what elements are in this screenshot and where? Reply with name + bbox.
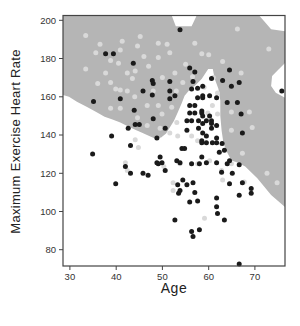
data-point — [145, 103, 150, 108]
x-axis-label: Age — [63, 280, 285, 296]
data-point — [116, 61, 121, 66]
y-axis-ticks: 80100120140160180200 — [40, 15, 63, 255]
data-point — [141, 89, 146, 94]
data-point — [163, 168, 168, 173]
data-point — [192, 111, 197, 116]
data-point — [128, 143, 133, 148]
data-point — [132, 108, 137, 113]
data-point — [199, 140, 204, 145]
data-point — [103, 70, 108, 75]
data-point — [174, 89, 179, 94]
data-point — [126, 126, 131, 131]
data-point — [214, 135, 219, 140]
data-point — [103, 51, 108, 56]
data-point — [136, 145, 141, 150]
data-point — [174, 120, 179, 125]
data-point — [227, 181, 232, 186]
data-point — [184, 128, 189, 133]
data-point — [172, 70, 177, 75]
data-point — [171, 180, 176, 185]
data-point — [180, 178, 185, 183]
data-point — [200, 93, 205, 98]
data-point — [113, 181, 118, 186]
data-point — [237, 193, 242, 198]
data-point — [108, 106, 113, 111]
data-point — [197, 161, 202, 166]
data-point — [160, 112, 165, 117]
data-point — [178, 27, 183, 32]
data-point — [184, 182, 189, 187]
data-point — [191, 234, 196, 239]
data-point — [158, 126, 163, 131]
y-axis-label: Maximum Exercise Heart Rate — [8, 22, 23, 262]
data-point — [156, 55, 161, 60]
data-point — [200, 113, 205, 118]
data-point — [195, 95, 200, 100]
data-point — [200, 84, 205, 89]
data-point — [249, 191, 254, 196]
data-point — [214, 196, 219, 201]
data-point — [192, 190, 197, 195]
data-point — [111, 51, 116, 56]
y-tick-label: 200 — [40, 15, 56, 26]
data-point — [275, 180, 280, 185]
data-point — [220, 178, 225, 183]
data-point — [209, 126, 214, 131]
data-point — [187, 111, 192, 116]
data-point — [120, 39, 125, 44]
data-point — [128, 171, 133, 176]
data-point — [214, 204, 219, 209]
data-point — [131, 61, 136, 66]
data-point — [125, 70, 130, 75]
data-point — [167, 96, 172, 101]
data-point — [222, 148, 227, 153]
data-point — [187, 66, 192, 71]
data-point — [83, 33, 88, 38]
data-point — [169, 105, 174, 110]
data-point — [204, 140, 209, 145]
data-point — [197, 227, 202, 232]
data-point — [199, 51, 204, 56]
data-point — [180, 80, 185, 85]
data-point — [235, 26, 240, 31]
data-point — [214, 123, 219, 128]
data-point — [158, 155, 163, 160]
data-point — [196, 118, 201, 123]
data-point — [195, 86, 200, 91]
data-point — [189, 161, 194, 166]
data-point — [175, 134, 180, 139]
scatter-plot-svg: 304050607080100120140160180200 — [0, 0, 300, 326]
data-point — [199, 155, 204, 160]
data-point — [250, 125, 255, 130]
data-point — [138, 34, 143, 39]
data-point — [200, 121, 205, 126]
data-point — [190, 74, 195, 79]
data-point — [210, 103, 215, 108]
data-point — [90, 152, 95, 157]
data-point — [160, 75, 165, 80]
data-point — [151, 116, 156, 121]
data-point — [220, 141, 225, 146]
data-point — [183, 62, 188, 67]
data-point — [265, 171, 270, 176]
data-point — [279, 89, 284, 94]
data-point — [83, 67, 88, 72]
data-point — [227, 68, 232, 73]
data-point — [209, 121, 214, 126]
data-point — [239, 112, 244, 117]
data-point — [192, 69, 197, 74]
data-point — [215, 112, 220, 117]
data-point — [187, 103, 192, 108]
data-point — [113, 87, 118, 92]
data-point — [192, 41, 197, 46]
y-tick-label: 180 — [40, 53, 56, 64]
data-point — [187, 199, 192, 204]
data-point — [135, 44, 140, 49]
data-point — [240, 131, 245, 136]
data-point — [237, 80, 242, 85]
y-tick-label: 140 — [40, 129, 56, 140]
data-point — [191, 180, 196, 185]
data-point — [247, 110, 252, 115]
data-point — [202, 216, 207, 221]
data-point — [189, 118, 194, 123]
